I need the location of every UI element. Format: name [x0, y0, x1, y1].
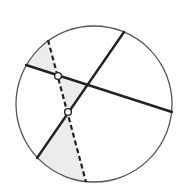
- shaded-regions: [26, 40, 87, 182]
- chord-b: [26, 65, 172, 112]
- upper-point: [55, 73, 62, 80]
- lower-point: [65, 109, 72, 116]
- diagram-canvas: [0, 0, 183, 193]
